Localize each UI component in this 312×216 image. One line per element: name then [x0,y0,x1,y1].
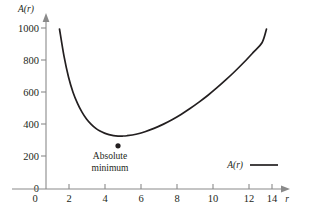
data-series-curve [60,29,267,136]
chart-figure: 1000 800 600 400 200 0 A(r) 0 2 4 6 8 10 [0,0,312,216]
x-tick-label-10: 10 [208,193,219,204]
x-axis: 0 2 4 6 8 10 12 14 r [12,184,290,204]
x-axis-title: r [285,194,289,204]
y-tick-label-800: 800 [23,55,39,66]
y-tick-label-1000: 1000 [18,23,39,34]
y-tick-label-400: 400 [23,119,39,130]
absolute-minimum-label-line1: Absolute [93,151,127,161]
x-tick-label-14: 14 [267,193,278,204]
x-tick-label-6: 6 [138,193,143,204]
y-tick-label-200: 200 [23,151,39,162]
x-axis-arrowhead [281,186,290,193]
x-tick-label-12: 12 [244,193,255,204]
chart-svg: 1000 800 600 400 200 0 A(r) 0 2 4 6 8 10 [0,0,312,216]
y-tick-label-600: 600 [23,87,39,98]
absolute-minimum-annotation: Absolute minimum [92,143,130,173]
y-axis: 1000 800 600 400 200 0 A(r) [17,4,49,194]
x-tick-label-8: 8 [174,193,179,204]
legend-label-ar: A(r) [226,160,243,171]
absolute-minimum-dot [115,143,120,148]
x-tick-label-4: 4 [102,193,108,204]
legend: A(r) [226,160,278,171]
y-axis-arrowhead [43,13,50,22]
absolute-minimum-label-line2: minimum [92,163,130,173]
x-tick-label-0: 0 [32,193,37,204]
y-axis-title: A(r) [17,4,34,15]
x-tick-label-2: 2 [66,193,71,204]
